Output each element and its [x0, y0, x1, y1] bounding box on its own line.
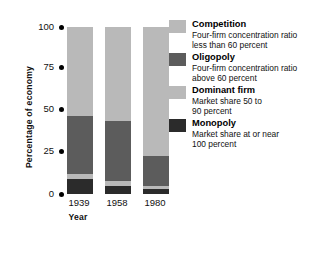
legend-title-dominant-firm: Dominant firm: [192, 85, 262, 96]
bar-segment-monopoly-1958: [105, 186, 131, 194]
legend-title-monopoly: Monopoly: [192, 118, 279, 129]
y-tick-label-25: 25: [43, 145, 54, 157]
legend-desc-oligopoly-line1: Four-firm concentration ratio: [192, 63, 297, 73]
bar-1939: [67, 27, 93, 194]
legend-text-monopoly: Monopoly Market share at or near 100 per…: [192, 118, 279, 149]
y-tick-0: 0: [49, 188, 64, 200]
bar-segment-competition-1958: [105, 27, 131, 121]
legend-desc-monopoly-line1: Market share at or near: [192, 129, 279, 139]
legend-swatch-competition: [169, 20, 186, 33]
bar-segment-competition-1980: [143, 27, 169, 156]
y-tick-label-50: 50: [43, 103, 54, 115]
legend-title-competition: Competition: [192, 19, 297, 30]
bar-segment-monopoly-1980: [143, 189, 169, 194]
legend-desc-monopoly-line2: 100 percent: [192, 139, 279, 149]
x-tick-label-1958: 1958: [104, 197, 130, 208]
stacked-bar-chart: Percentage of economy 100 75 50 25 0 19: [0, 0, 330, 261]
legend-desc-oligopoly-line2: above 60 percent: [192, 73, 297, 83]
legend-swatch-dominant-firm: [169, 86, 186, 99]
legend-item-oligopoly: Oligopoly Four-firm concentration ratio …: [169, 52, 327, 83]
bar-1980: [143, 27, 169, 194]
legend-desc-dominant-firm-line2: 90 percent: [192, 106, 262, 116]
y-tick-dot-icon: [59, 192, 64, 197]
x-axis-title: Year: [55, 212, 101, 222]
legend-text-competition: Competition Four-firm concentration rati…: [192, 19, 297, 50]
y-tick-dot-icon: [59, 25, 64, 30]
x-tick-label-1980: 1980: [142, 197, 168, 208]
legend-swatch-monopoly: [169, 119, 186, 132]
y-tick-25: 25: [43, 145, 64, 157]
legend-desc-competition-line2: less than 60 percent: [192, 40, 297, 50]
chart-legend: Competition Four-firm concentration rati…: [169, 19, 327, 151]
bar-segment-oligopoly-1939: [67, 116, 93, 174]
bar-segment-oligopoly-1958: [105, 121, 131, 181]
legend-desc-dominant-firm-line1: Market share 50 to: [192, 96, 262, 106]
legend-item-dominant-firm: Dominant firm Market share 50 to 90 perc…: [169, 85, 327, 116]
y-tick-label-75: 75: [43, 61, 54, 73]
legend-item-competition: Competition Four-firm concentration rati…: [169, 19, 327, 50]
y-tick-label-100: 100: [38, 21, 54, 33]
legend-title-oligopoly: Oligopoly: [192, 52, 297, 63]
legend-text-oligopoly: Oligopoly Four-firm concentration ratio …: [192, 52, 297, 83]
x-axis-ticks: 1939 1958 1980: [67, 197, 170, 211]
legend-desc-competition-line1: Four-firm concentration ratio: [192, 30, 297, 40]
y-tick-dot-icon: [59, 65, 64, 70]
legend-item-monopoly: Monopoly Market share at or near 100 per…: [169, 118, 327, 149]
bar-segment-competition-1939: [67, 27, 93, 116]
x-tick-label-1939: 1939: [66, 197, 92, 208]
bar-segment-monopoly-1939: [67, 179, 93, 194]
legend-swatch-oligopoly: [169, 53, 186, 66]
bar-1958: [105, 27, 131, 194]
y-tick-75: 75: [43, 61, 64, 73]
plot-area: [67, 27, 170, 194]
legend-text-dominant-firm: Dominant firm Market share 50 to 90 perc…: [192, 85, 262, 116]
y-tick-label-0: 0: [49, 188, 54, 200]
bar-segment-oligopoly-1980: [143, 156, 169, 186]
y-tick-dot-icon: [59, 149, 64, 154]
y-tick-100: 100: [38, 21, 64, 33]
y-tick-50: 50: [43, 103, 64, 115]
y-tick-dot-icon: [59, 107, 64, 112]
